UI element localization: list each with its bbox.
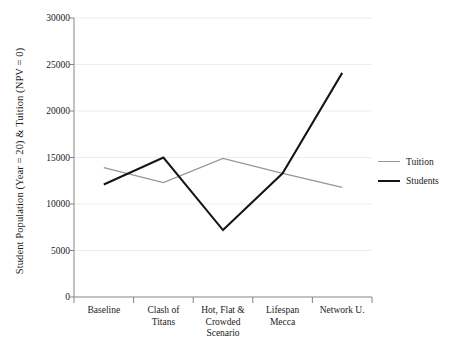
x-tick-label-network-u: Network U. — [307, 305, 377, 317]
x-axis-ticks — [74, 297, 372, 303]
legend-label-students: Students — [406, 176, 439, 186]
legend-item-tuition: Tuition — [378, 152, 456, 171]
chart-legend: Tuition Students — [378, 152, 456, 190]
x-tick-line: Network U. — [307, 305, 377, 317]
y-axis-ticks — [70, 18, 74, 297]
legend-swatch-tuition — [378, 161, 400, 162]
series-line-students — [104, 73, 342, 230]
line-chart-figure: Student Population (Year = 20) & Tuition… — [0, 0, 456, 357]
gridlines — [74, 18, 372, 251]
legend-swatch-students — [378, 180, 400, 182]
legend-label-tuition: Tuition — [406, 157, 434, 167]
legend-item-students: Students — [378, 171, 456, 190]
x-tick-line: Mecca — [248, 317, 318, 329]
x-axis-title: Scenario — [163, 328, 283, 338]
series-line-tuition — [104, 158, 342, 187]
